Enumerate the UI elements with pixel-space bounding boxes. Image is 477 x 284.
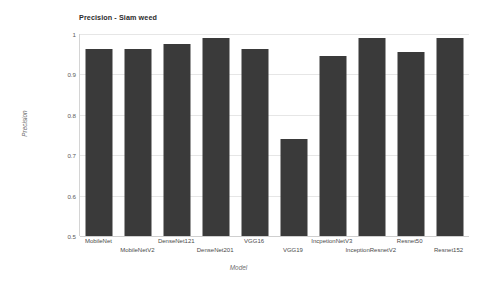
bar[interactable]	[164, 44, 191, 236]
bar[interactable]	[436, 38, 463, 236]
y-tick-label: 1	[73, 31, 76, 38]
plot-area	[79, 34, 469, 236]
bar-slot	[352, 34, 391, 236]
x-axis: MobileNetMobileNetV2DenseNet121DenseNet2…	[79, 238, 468, 262]
bar-slot	[80, 34, 119, 236]
bar[interactable]	[397, 52, 424, 236]
bar-slot	[236, 34, 275, 236]
y-tick-label: 0.5	[67, 233, 76, 240]
bar[interactable]	[280, 139, 307, 236]
x-tick-label: Resnet152	[434, 247, 463, 253]
y-tick-label: 0.8	[67, 111, 76, 118]
bar[interactable]	[125, 49, 152, 236]
bar[interactable]	[242, 49, 269, 236]
bar-slot	[158, 34, 197, 236]
chart-figure: Precision - Siam weed 10.90.80.70.60.5 P…	[0, 0, 477, 284]
x-tick-label: MobileNet	[85, 238, 112, 244]
x-tick-label: VGG16	[244, 238, 264, 244]
bar-slot	[275, 34, 314, 236]
x-tick-label: DenseNet201	[197, 247, 234, 253]
chart-title: Precision - Siam weed	[79, 13, 157, 22]
x-tick-label: DenseNet121	[158, 238, 195, 244]
bar-slot	[197, 34, 236, 236]
bar[interactable]	[86, 49, 113, 236]
bar-slot	[119, 34, 158, 236]
bar-slot	[391, 34, 430, 236]
x-tick-label: MobileNetV2	[120, 247, 154, 253]
x-tick-label: VGG19	[283, 247, 303, 253]
bar-slot	[430, 34, 469, 236]
gridline	[80, 236, 469, 237]
bar[interactable]	[319, 56, 346, 236]
bar-slot	[313, 34, 352, 236]
x-axis-title: Model	[0, 264, 477, 271]
y-axis-title: Precision	[21, 94, 28, 154]
y-axis: 10.90.80.70.60.5	[52, 34, 76, 236]
x-tick-label: IncpetionNetV3	[311, 238, 352, 244]
y-tick-label: 0.6	[67, 192, 76, 199]
bar[interactable]	[358, 38, 385, 236]
x-tick-label: InceptionResnetV2	[345, 247, 396, 253]
y-tick-label: 0.7	[67, 152, 76, 159]
x-tick-label: Resnet50	[397, 238, 423, 244]
bar[interactable]	[203, 38, 230, 236]
y-tick-label: 0.9	[67, 71, 76, 78]
